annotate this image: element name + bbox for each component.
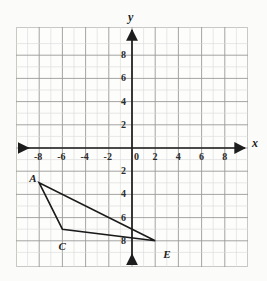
y-tick-neg4: 4 xyxy=(121,189,126,199)
x-tick-6: 6 xyxy=(199,152,204,162)
vertex-label-C: C xyxy=(58,241,65,252)
vertex-label-E: E xyxy=(163,249,170,260)
y-tick-2: 2 xyxy=(121,120,126,130)
x-tick-2: 2 xyxy=(153,152,158,162)
x-tick-8: 8 xyxy=(222,152,227,162)
y-tick-8: 8 xyxy=(121,50,126,60)
y-tick-6: 6 xyxy=(121,73,126,83)
x-tick-neg8: -8 xyxy=(34,152,42,162)
y-tick-neg6: 6 xyxy=(121,213,126,223)
x-axis-label: x xyxy=(252,137,258,149)
x-tick-neg6: -6 xyxy=(57,152,65,162)
vertex-label-A: A xyxy=(29,173,36,184)
y-axis-label: y xyxy=(128,11,133,23)
y-tick-4: 4 xyxy=(121,97,126,107)
x-tick-4: 4 xyxy=(176,152,181,162)
x-tick-0: 0 xyxy=(134,152,139,162)
coordinate-plane-figure: -8-6-4-20246824682468ACE x y xyxy=(0,0,267,281)
triangle-layer xyxy=(0,0,267,281)
y-tick-neg2: 2 xyxy=(121,166,126,176)
x-tick-neg4: -4 xyxy=(80,152,88,162)
x-tick-neg2: -2 xyxy=(104,152,112,162)
y-tick-neg8: 8 xyxy=(121,236,126,246)
